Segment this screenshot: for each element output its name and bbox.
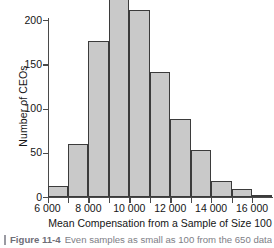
x-tick-label: 12 000	[154, 203, 186, 214]
histogram-bar	[211, 181, 231, 197]
x-axis-line	[48, 197, 273, 198]
y-tick-label: 100	[8, 103, 42, 114]
histogram-bar	[191, 150, 211, 197]
y-tick-label: 200	[8, 15, 42, 26]
y-axis-tick-labels: 050100150200	[8, 0, 42, 212]
histogram-bar	[68, 144, 88, 197]
x-axis-tick-labels: 6 0008 00010 00012 00014 00016 000	[48, 203, 273, 217]
x-tick-label: 16 000	[236, 203, 268, 214]
histogram-bar	[88, 41, 108, 197]
histogram-figure: Number of CEOs 050100150200 6 0008 00010…	[0, 0, 273, 248]
histogram-bar	[252, 195, 272, 197]
histogram-bar	[150, 72, 170, 197]
x-tick-label: 14 000	[195, 203, 227, 214]
bar-series	[48, 0, 273, 197]
x-axis-title: Mean Compensation from a Sample of Size …	[48, 217, 273, 229]
histogram-bar	[170, 119, 190, 197]
y-tick-label: 150	[8, 59, 42, 70]
caption-rule-mark	[4, 235, 6, 245]
x-tick-mark	[273, 198, 274, 203]
histogram-bar	[129, 10, 149, 197]
histogram-bar	[48, 186, 68, 197]
caption-body-text: Even samples as small as 100 from the 65…	[65, 234, 272, 245]
plot-area: Number of CEOs 050100150200 6 0008 00010…	[0, 0, 273, 212]
histogram-bar	[232, 189, 252, 197]
x-tick-label: 8 000	[75, 203, 101, 214]
x-tick-label: 10 000	[113, 203, 145, 214]
histogram-bar	[109, 0, 129, 197]
y-tick-label: 0	[8, 192, 42, 203]
x-tick-label: 6 000	[34, 203, 60, 214]
figure-caption: Figure 11-4 Even samples as small as 100…	[0, 234, 273, 248]
y-tick-label: 50	[8, 147, 42, 158]
caption-figure-number: Figure 11-4	[10, 234, 61, 245]
